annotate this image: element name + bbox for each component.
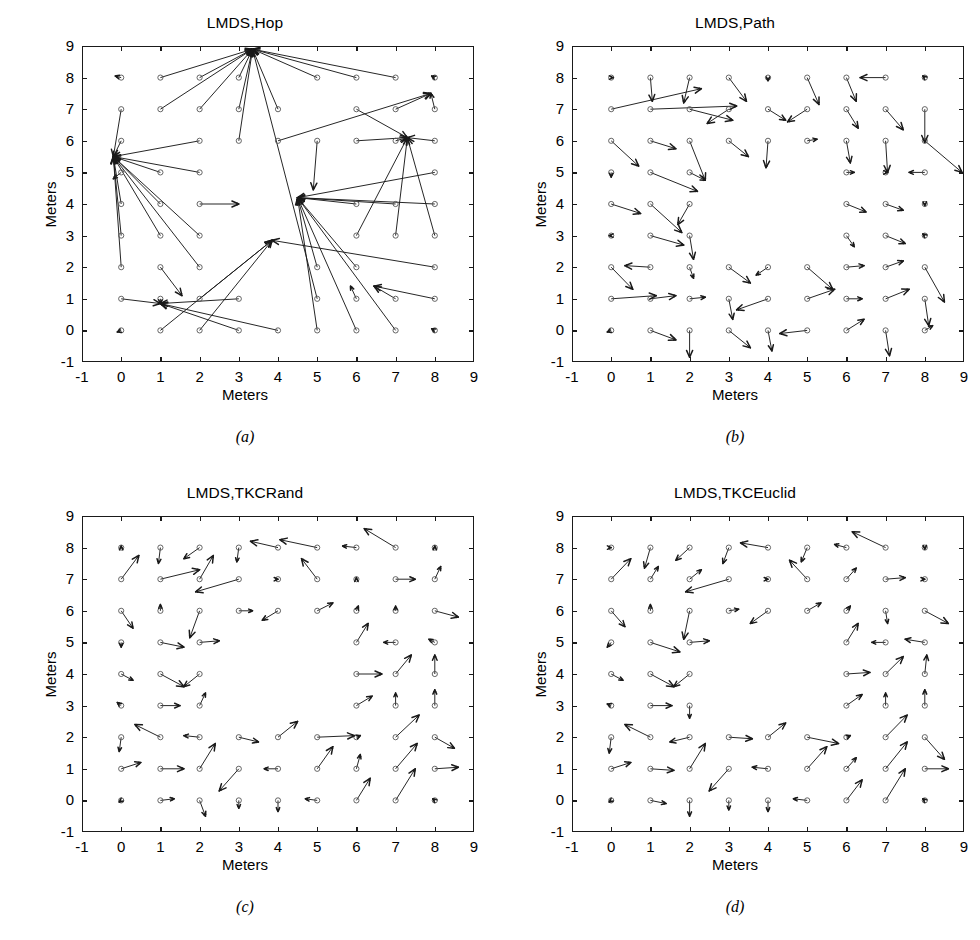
x-tick-label: 9 <box>459 838 489 855</box>
panel-a-ylabel: Meters <box>42 145 59 265</box>
arrowhead-crossbar <box>252 540 253 543</box>
y-tick-mark <box>469 330 474 331</box>
y-tick-mark <box>469 769 474 770</box>
y-tick-label: 7 <box>534 100 564 117</box>
y-tick-mark <box>469 642 474 643</box>
error-vector-line <box>807 267 832 289</box>
true-position-marker <box>354 766 359 771</box>
panel-a: LMDS,Hop -10123456789 9876543210-1 Meter… <box>0 0 490 470</box>
true-position-marker <box>844 640 849 645</box>
arrowhead-barb <box>929 318 931 325</box>
true-position-marker <box>687 170 692 175</box>
x-tick-mark <box>690 827 691 832</box>
y-tick-mark <box>572 800 577 801</box>
y-tick-label: 0 <box>44 791 74 808</box>
x-tick-mark <box>160 357 161 362</box>
arrowhead-barb <box>669 293 676 295</box>
x-tick-mark <box>925 827 926 832</box>
y-tick-mark <box>572 579 577 580</box>
y-tick-mark <box>82 706 87 707</box>
error-vector-line <box>790 560 808 579</box>
error-vector-line <box>686 579 729 592</box>
true-position-marker <box>687 265 692 270</box>
y-tick-mark <box>959 172 964 173</box>
arrowhead-crossbar <box>738 308 739 311</box>
arrowhead-crossbar <box>664 802 665 805</box>
error-vector-line <box>925 737 945 759</box>
true-position-marker <box>609 671 614 676</box>
arrowhead-barb <box>196 592 203 593</box>
panel-a-plot-area <box>82 46 474 362</box>
arrowhead-barb <box>772 345 773 351</box>
x-tick-label: 8 <box>420 368 450 385</box>
arrowhead-crossbar <box>742 542 743 545</box>
x-tick-mark <box>611 357 612 362</box>
true-position-marker <box>883 798 888 803</box>
x-tick-label: -1 <box>557 838 587 855</box>
panel-c-title: LMDS,TKCRand <box>0 484 490 502</box>
error-vector-line <box>690 744 706 769</box>
error-vector-line <box>160 674 184 687</box>
y-tick-label: -1 <box>44 823 74 840</box>
x-tick-label: 2 <box>675 368 705 385</box>
arrowhead-crossbar <box>358 756 361 757</box>
y-tick-mark <box>572 642 577 643</box>
x-tick-label: -1 <box>67 838 97 855</box>
y-tick-mark <box>469 299 474 300</box>
x-tick-label: 3 <box>714 838 744 855</box>
x-tick-label: 0 <box>106 368 136 385</box>
arrowhead-barb <box>214 639 220 641</box>
error-vector-line <box>160 304 278 331</box>
y-tick-mark <box>82 236 87 237</box>
x-tick-mark <box>846 827 847 832</box>
x-tick-mark <box>356 357 357 362</box>
error-vector-line <box>709 769 729 791</box>
arrowhead-barb <box>625 263 632 266</box>
arrowhead-barb <box>251 540 258 541</box>
y-tick-mark <box>572 706 577 707</box>
arrowhead-crossbar <box>674 338 675 341</box>
x-tick-mark <box>121 46 122 51</box>
arrowhead-crossbar <box>203 814 206 815</box>
arrowhead-crossbar <box>252 51 255 52</box>
x-tick-label: 8 <box>420 838 450 855</box>
true-position-marker <box>197 545 202 550</box>
x-tick-label: 9 <box>949 368 979 385</box>
y-tick-mark <box>959 204 964 205</box>
y-tick-mark <box>82 800 87 801</box>
true-position-marker <box>158 75 163 80</box>
x-tick-label: 6 <box>831 838 861 855</box>
x-tick-mark <box>396 827 397 832</box>
x-tick-mark <box>925 357 926 362</box>
y-tick-mark <box>82 674 87 675</box>
error-vector-line <box>298 198 357 331</box>
true-position-marker <box>883 296 888 301</box>
x-tick-mark <box>396 516 397 521</box>
true-position-marker <box>393 798 398 803</box>
arrowhead-barb <box>452 765 459 767</box>
y-tick-mark <box>469 674 474 675</box>
true-position-marker <box>197 233 202 238</box>
arrowhead-crossbar <box>683 637 686 638</box>
arrowhead-barb <box>733 313 734 319</box>
true-position-marker <box>765 296 770 301</box>
error-vector-line <box>356 138 407 236</box>
panel-a-title: LMDS,Hop <box>0 14 490 32</box>
y-tick-mark <box>959 78 964 79</box>
error-vector-line <box>113 141 199 157</box>
y-tick-mark <box>959 141 964 142</box>
error-vector-line <box>200 556 214 580</box>
x-tick-mark <box>886 827 887 832</box>
arrowhead-crossbar <box>189 635 192 636</box>
y-tick-label: 8 <box>44 69 74 86</box>
error-vector-line <box>253 49 318 299</box>
error-vector-line <box>317 736 354 738</box>
y-tick-label: 1 <box>44 760 74 777</box>
x-tick-mark <box>650 516 651 521</box>
y-tick-mark <box>82 78 87 79</box>
x-tick-label: 4 <box>753 838 783 855</box>
arrowhead-barb <box>746 739 753 741</box>
error-vector-line <box>396 715 420 737</box>
error-vector-line <box>846 780 862 801</box>
figure-root: LMDS,Hop -10123456789 9876543210-1 Meter… <box>0 0 980 940</box>
